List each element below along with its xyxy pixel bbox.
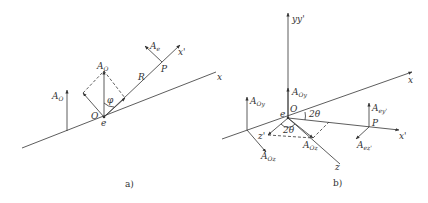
dashed-z-prime-to-x-prime	[268, 135, 313, 138]
label-R: R	[137, 72, 145, 82]
label-z-prime: z'	[257, 131, 265, 141]
label-two-theta-right: 2θ	[308, 109, 321, 119]
label-x-prime-a: x'	[178, 47, 186, 57]
label-P-b: P	[371, 118, 379, 128]
label-phi: φ	[107, 95, 114, 105]
label-two-theta-bottom: 2θ	[282, 125, 295, 135]
label-x-prime-b: x'	[399, 131, 407, 141]
A-ez-prime-arrow	[356, 127, 369, 139]
label-x-a: x	[217, 72, 222, 82]
label-e-b: e	[280, 109, 285, 119]
label-z: z	[334, 162, 340, 172]
label-A-ey-prime: Aey'	[371, 103, 387, 115]
label-e-a: e	[101, 118, 106, 128]
diagram-canvas: AO AO φ O e R P Ae x' x a) yy' x x' z z'…	[0, 0, 428, 203]
caption-a: a)	[125, 179, 134, 189]
label-A-e: Ae	[149, 41, 161, 52]
label-A-Oz-left: AOz	[260, 151, 276, 162]
label-O-a: O	[91, 111, 99, 121]
label-A-O-center: AO	[96, 61, 109, 72]
label-A-Oy-center: AOy	[291, 87, 307, 99]
label-O-b: O	[290, 104, 298, 114]
label-A-ez-prime: Aez'	[356, 140, 372, 151]
caption-b: b)	[333, 178, 342, 188]
label-A-Oz-center: AOz	[302, 140, 318, 151]
dashed-to-x-prime	[313, 122, 329, 138]
panel-b	[222, 13, 412, 164]
x-axis-a	[22, 72, 216, 148]
label-A-Oy-left: AOy	[249, 96, 265, 108]
label-A-O-left: AO	[51, 91, 64, 102]
label-x-b: x	[408, 75, 413, 85]
label-yy-prime: yy'	[291, 14, 305, 24]
z-axis	[288, 118, 340, 164]
diagram-svg: AO AO φ O e R P Ae x' x a) yy' x x' z z'…	[0, 0, 428, 203]
label-P-a: P	[160, 64, 168, 74]
